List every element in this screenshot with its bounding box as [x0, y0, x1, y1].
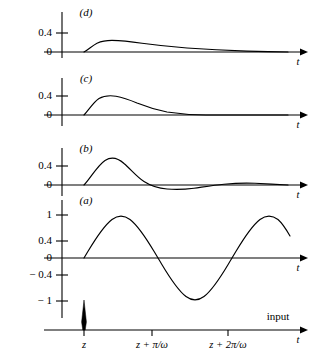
input-xtick-label-z-plus-pi-over-omega: z + π/ω	[135, 339, 168, 350]
panel-c-x-axis-arrowhead	[300, 112, 308, 119]
panel-a-x-axis-arrowhead	[300, 255, 308, 262]
input-xtick-label-z-plus-2pi-over-omega: z + 2π/ω	[208, 339, 246, 350]
panel-c-curve	[84, 96, 288, 115]
panel-d-x-axis-arrowhead	[300, 49, 308, 56]
panel-b-ytick-label-0.4: 0.4	[38, 159, 52, 171]
input-x-axis-arrowhead	[300, 327, 308, 334]
panel-a-x-axis-label: t	[297, 262, 301, 273]
panel-b-ytick-label-0: 0	[47, 178, 53, 190]
panel-b-x-axis-arrowhead	[300, 182, 308, 189]
input-label: input	[267, 310, 290, 322]
panel-a-ytick-label-0.4: 0.4	[38, 234, 52, 246]
input-xtick-label-z: z	[81, 339, 86, 350]
input-x-axis-label: t	[297, 334, 301, 345]
panel-b-label: (b)	[80, 142, 93, 155]
input-axis-panel: z z + π/ω z + 2π/ω input t	[44, 300, 308, 350]
panel-a-ytick-label-1: 1	[47, 208, 53, 220]
input-impulse-spike	[82, 300, 87, 330]
panel-a-ytick-label-neg0.4: − 0.4	[29, 268, 52, 280]
panel-d-x-axis-label: t	[297, 56, 301, 67]
panel-c-x-axis-label: t	[297, 119, 301, 130]
panel-a-label: (a)	[80, 194, 93, 207]
wave-propagation-figure: 0.4 0 (d) t 0.4 0 (c) t	[0, 0, 320, 355]
panel-b: 0.4 0 (b) t	[38, 142, 308, 200]
panel-d-curve	[84, 40, 288, 52]
figure-container: 0.4 0 (d) t 0.4 0 (c) t	[0, 0, 320, 355]
panel-c-ytick-label-0.4: 0.4	[38, 89, 52, 101]
panel-d: 0.4 0 (d) t	[38, 6, 308, 67]
panel-d-ytick-label-0: 0	[47, 45, 53, 57]
panel-a: 1 0.4 0 − 0.4 − 1 (a) t	[29, 194, 308, 318]
panel-a-ytick-label-0: 0	[47, 251, 53, 263]
panel-d-ytick-label-0.4: 0.4	[38, 26, 52, 38]
panel-b-x-axis-label: t	[297, 189, 301, 200]
panel-c: 0.4 0 (c) t	[38, 72, 308, 130]
panel-d-label: (d)	[80, 6, 93, 19]
panel-c-ytick-label-0: 0	[47, 108, 53, 120]
panel-a-ytick-label-neg1: − 1	[38, 294, 52, 306]
panel-c-label: (c)	[80, 72, 93, 85]
